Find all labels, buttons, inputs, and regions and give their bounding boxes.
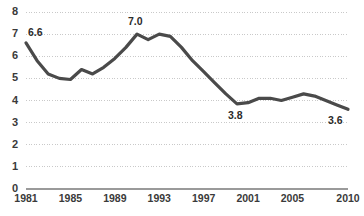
data-point-label: 6.6	[28, 26, 43, 38]
data-point-label: 3.8	[228, 109, 243, 121]
x-axis-tick-label: 2001	[232, 192, 264, 204]
y-axis-tick-label: 7	[2, 27, 18, 39]
y-axis-tick-label: 4	[2, 94, 18, 106]
x-axis-tick-label: 2005	[276, 192, 308, 204]
data-point-label: 3.6	[328, 114, 343, 126]
data-series-line	[26, 34, 348, 109]
x-axis-tick-label: 1993	[143, 192, 175, 204]
x-axis-tick-label: 1985	[54, 192, 86, 204]
y-axis-tick-label: 5	[2, 71, 18, 83]
y-axis-tick-label: 8	[2, 5, 18, 17]
y-axis-tick-label: 3	[2, 116, 18, 128]
x-axis-tick-label: 2010	[332, 192, 364, 204]
y-axis-tick-label: 1	[2, 160, 18, 172]
series-line	[26, 34, 348, 109]
x-axis-tick-label: 1981	[10, 192, 42, 204]
x-axis-tick-label: 1989	[99, 192, 131, 204]
y-axis-tick-label: 6	[2, 49, 18, 61]
data-point-label: 7.0	[128, 15, 143, 27]
gridlines	[26, 12, 348, 167]
x-axis-tick-label: 1997	[188, 192, 220, 204]
y-axis-tick-label: 2	[2, 138, 18, 150]
